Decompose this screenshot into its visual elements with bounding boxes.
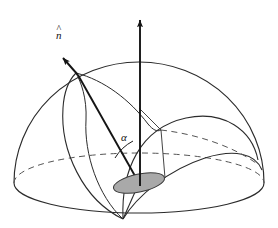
- figure-container: ^ n α: [0, 0, 278, 228]
- hemisphere-diagram-svg: [0, 0, 278, 228]
- hemisphere-dome-outline: [14, 62, 264, 183]
- hat-accent-icon: ^: [56, 24, 61, 34]
- radius-to-normal-point: [78, 75, 139, 183]
- normal-vector-arrow: [63, 58, 78, 75]
- meridian-arc-near-edge: [76, 73, 123, 219]
- shaded-disc: [112, 169, 167, 197]
- meridian-arc-to-band-vertex: [76, 73, 161, 131]
- normal-vector-label: ^ n: [56, 30, 62, 41]
- great-circle-band-upper-rim: [123, 116, 258, 219]
- angle-label: α: [121, 132, 127, 143]
- meridian-arc-left: [63, 73, 123, 219]
